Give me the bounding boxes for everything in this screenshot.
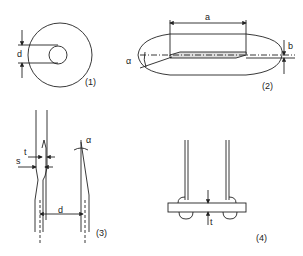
fig2-label-a: a — [205, 13, 210, 22]
fig3-label-s: s — [16, 157, 21, 166]
diagram-drawing — [0, 0, 303, 256]
fig2-label-alpha: α — [126, 57, 131, 66]
figure-4-plate-with-pins — [168, 140, 246, 225]
fig2-label-b: b — [288, 42, 293, 51]
fig3-label-d: d — [58, 206, 63, 215]
fig1-label-d: d — [17, 50, 22, 59]
fig1-caption: (1) — [85, 78, 96, 87]
figure-2-elongated-disc — [138, 20, 295, 75]
fig3-caption: (3) — [96, 229, 107, 238]
fig4-caption: (4) — [256, 234, 267, 243]
fig2-caption: (2) — [262, 82, 273, 91]
technical-diagram: d (1) a b α (2) t s α d (3) t (4) — [0, 0, 303, 256]
figure-3-wire-pair — [18, 110, 89, 245]
figure-1-washer — [18, 23, 92, 87]
fig4-label-t: t — [210, 218, 213, 227]
fig3-label-alpha: α — [86, 136, 91, 145]
fig3-label-t: t — [24, 148, 27, 157]
